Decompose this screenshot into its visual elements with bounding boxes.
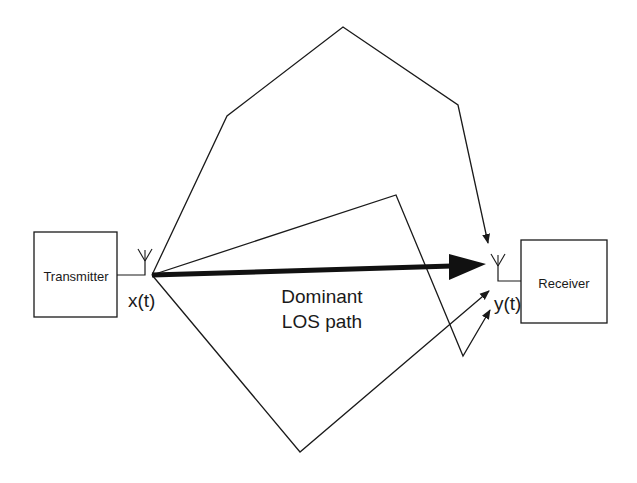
los-arrowhead-icon [449,254,486,280]
receiver-antenna-icon [491,254,505,266]
multipath-diagram: Transmitter x(t) Dominant LOS path Recei… [0,0,637,483]
receiver-feed-line [498,266,521,281]
reflected-path-top [152,27,488,275]
transmitter-block: Transmitter x(t) [34,232,155,317]
receive-signal-label: y(t) [494,293,521,314]
los-label-line2: LOS path [282,311,362,332]
receiver-block: Receiver y(t) [491,240,607,323]
los-label-line1: Dominant [281,286,363,307]
receiver-label: Receiver [538,276,590,291]
transmit-signal-label: x(t) [128,290,155,311]
transmitter-feed-line [117,261,145,275]
transmitter-label: Transmitter [43,269,109,284]
transmitter-antenna-icon [138,249,152,261]
